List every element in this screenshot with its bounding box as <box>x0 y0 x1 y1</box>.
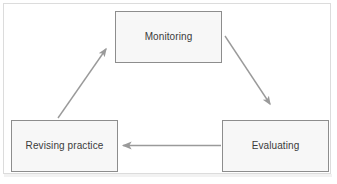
node-evaluating[interactable]: Evaluating <box>222 120 329 172</box>
node-evaluating-label: Evaluating <box>252 140 300 152</box>
arrow-revising-to-monitoring <box>58 49 106 118</box>
diagram-canvas: Monitoring Revising practice Evaluating <box>0 0 337 184</box>
node-revising-practice-label: Revising practice <box>26 140 104 152</box>
arrow-monitoring-to-evaluating <box>225 36 270 104</box>
node-monitoring[interactable]: Monitoring <box>115 11 222 63</box>
node-revising-practice[interactable]: Revising practice <box>11 120 118 172</box>
node-monitoring-label: Monitoring <box>145 31 193 43</box>
